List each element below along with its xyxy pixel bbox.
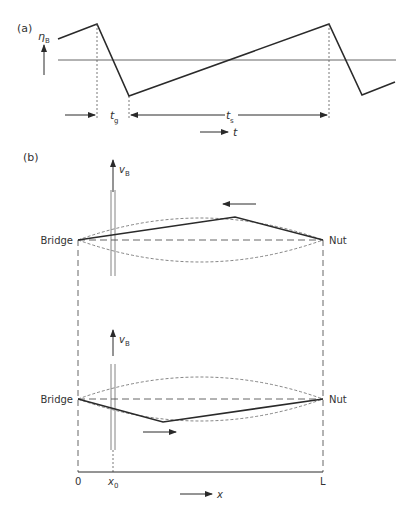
x0-symbol: x	[107, 476, 114, 487]
velocity-subscript: B	[125, 170, 130, 178]
nut-label: Nut	[329, 235, 347, 246]
origin-label: 0	[75, 476, 81, 487]
nut-label: Nut	[329, 394, 347, 405]
x0-subscript: 0	[114, 482, 118, 490]
lower-string-state: v B Bridge Nut	[40, 330, 346, 450]
y-axis-subscript: B	[45, 37, 50, 45]
panel-a: (a) η B t g t s t	[17, 22, 396, 139]
bridge-label: Bridge	[40, 235, 73, 246]
tg-subscript: g	[114, 117, 118, 125]
end-label: L	[320, 476, 326, 487]
panel-b: (b) v B Bridge Nut v	[23, 151, 347, 500]
ts-subscript: s	[230, 117, 234, 125]
diagram-canvas: (a) η B t g t s t (b)	[0, 0, 409, 514]
y-axis-symbol: η	[38, 30, 45, 43]
bridge-label: Bridge	[40, 394, 73, 405]
panel-b-label: (b)	[23, 151, 39, 164]
velocity-subscript: B	[125, 340, 130, 348]
x-axis-label: x	[216, 489, 223, 500]
upper-string-state: v B Bridge Nut	[40, 160, 346, 276]
time-axis-label: t	[233, 126, 238, 139]
panel-a-label: (a)	[17, 22, 32, 35]
